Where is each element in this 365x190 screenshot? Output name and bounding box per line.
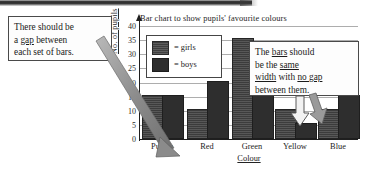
x-tick-blue: Blue <box>330 142 346 151</box>
legend-row-boys: = boys <box>152 57 216 72</box>
callout-left-line-1-text: There should be <box>14 22 74 32</box>
callout-right-emph-no-gap: no gap <box>297 72 322 82</box>
scan-artifact-band <box>0 0 252 6</box>
x-tick-red: Red <box>200 142 214 151</box>
callout-left-line-1: There should be <box>14 21 106 34</box>
bar-red-girls <box>187 109 209 139</box>
y-tick-40: 40 <box>128 22 136 31</box>
bar-blue-girls <box>318 109 340 139</box>
callout-right-line-3: width with no gap <box>255 71 353 84</box>
y-tick-25: 25 <box>128 64 136 73</box>
y-tick-10: 10 <box>128 106 136 115</box>
legend-label-girls: = girls <box>174 43 196 52</box>
x-tick-yellow: Yellow <box>283 142 307 151</box>
x-tick-green: Green <box>242 142 262 151</box>
legend-label-boys: = boys <box>174 60 197 69</box>
bar-purple-boys <box>162 95 184 139</box>
y-tick-0: 0 <box>132 135 136 144</box>
callout-right-emph-bars: bars <box>272 47 288 57</box>
callout-left-gap-between-sets: There should be a gap between each set o… <box>8 16 112 61</box>
x-axis-label-text: Colour <box>237 154 260 163</box>
callout-left-line-2c: between <box>34 35 67 45</box>
bar-yellow-boys <box>295 123 317 139</box>
bar-red-boys <box>207 81 229 140</box>
y-tick-30: 30 <box>128 50 136 59</box>
legend-row-girls: = girls <box>152 40 216 55</box>
callout-left-line-3-text: each set of bars. <box>14 47 74 57</box>
x-axis-line <box>139 139 358 140</box>
bar-purple-girls <box>142 95 164 139</box>
chart-legend: = girls = boys <box>146 35 222 78</box>
callout-right-emph-width: width <box>255 72 276 82</box>
x-axis-label: Colour <box>140 154 358 163</box>
x-tick-purple: Purple <box>151 142 173 151</box>
callout-right-line-1: The bars should <box>255 46 353 59</box>
callout-left-line-3: each set of bars. <box>14 46 106 59</box>
legend-swatch-boys-icon <box>152 58 169 72</box>
callout-left-line-2: a gap between <box>14 34 106 47</box>
y-tick-5: 5 <box>132 120 136 129</box>
callout-right-line-1a: The <box>255 47 272 57</box>
bar-yellow-girls <box>275 109 297 139</box>
callout-right-line-2a: be the <box>255 60 280 70</box>
y-tick-20: 20 <box>128 78 136 87</box>
callout-right-same-width: The bars should be the same width with n… <box>249 41 359 96</box>
y-tick-15: 15 <box>128 92 136 101</box>
bar-green-boys <box>252 95 274 139</box>
callout-right-line-3b: with <box>276 72 297 82</box>
callout-right-line-4-text: between them. <box>255 85 309 95</box>
callout-right-emph-same: same <box>280 60 299 70</box>
callout-right-line-4: between them. <box>255 84 353 97</box>
callout-right-line-2: be the same <box>255 59 353 72</box>
y-tick-35: 35 <box>128 36 136 45</box>
chart-title: Bar chart to show pupils' favourite colo… <box>140 14 360 23</box>
bar-blue-boys <box>338 95 360 139</box>
callout-right-line-1c: should <box>287 47 314 57</box>
callout-left-emph-gap: gap <box>20 35 33 45</box>
legend-swatch-girls-icon <box>152 41 169 55</box>
